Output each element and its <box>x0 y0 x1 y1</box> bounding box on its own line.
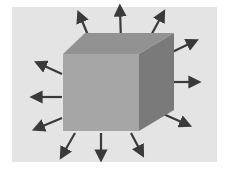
diagram-canvas: Cube with outward-radiating arrows <box>0 0 228 169</box>
cube-front-face <box>63 54 139 131</box>
cube-diagram <box>0 0 228 169</box>
